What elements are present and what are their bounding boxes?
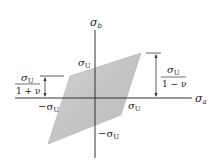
top-intercept-label: σU (78, 57, 91, 70)
left-dimension-arrowhead-up (44, 77, 47, 81)
right-fraction: σU 1 − ν (161, 64, 186, 89)
left-intercept-label: −σU (38, 101, 59, 114)
svg-text:σU: σU (21, 72, 34, 85)
svg-text:1 + ν: 1 + ν (16, 86, 40, 96)
failure-envelope-diagram: σb σa σU −σU σU −σU σU 1 + ν σU 1 − ν (0, 0, 215, 167)
horizontal-axis-label: σa (195, 92, 207, 106)
svg-text:σU: σU (167, 64, 180, 77)
svg-text:1 − ν: 1 − ν (162, 79, 186, 89)
right-dimension-arrowhead-up (155, 54, 158, 58)
left-dimension-arrowhead-down (44, 93, 47, 97)
right-intercept-label: σU (128, 100, 141, 113)
right-dimension-arrowhead-down (155, 93, 158, 97)
bottom-intercept-label: −σU (98, 128, 119, 141)
left-fraction: σU 1 + ν (15, 72, 40, 96)
vertical-axis-label: σb (90, 16, 103, 30)
